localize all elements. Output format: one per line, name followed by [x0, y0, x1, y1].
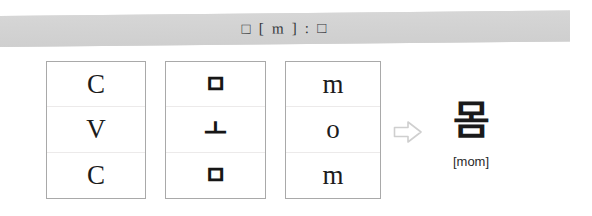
- table-row: C: [47, 62, 145, 107]
- result-syllable: 몸: [436, 100, 506, 140]
- table-row: m: [286, 62, 380, 107]
- table-row: V: [47, 107, 145, 152]
- table-row: ㅁ: [166, 153, 265, 198]
- table-row: ㅗ: [166, 107, 265, 152]
- right-arrow-icon: [393, 119, 423, 145]
- jamo-column-table: ㅁ ㅗ ㅁ: [165, 61, 266, 199]
- table-row: C: [47, 153, 145, 198]
- page-title: □ [ m ] : □: [0, 11, 570, 47]
- table-row: o: [286, 107, 380, 152]
- structure-column-table: C V C: [46, 61, 146, 199]
- result-transcription: [mom]: [436, 155, 506, 168]
- table-row: ㅁ: [166, 62, 265, 107]
- romanization-column-table: m o m: [285, 61, 381, 199]
- table-row: m: [286, 153, 380, 198]
